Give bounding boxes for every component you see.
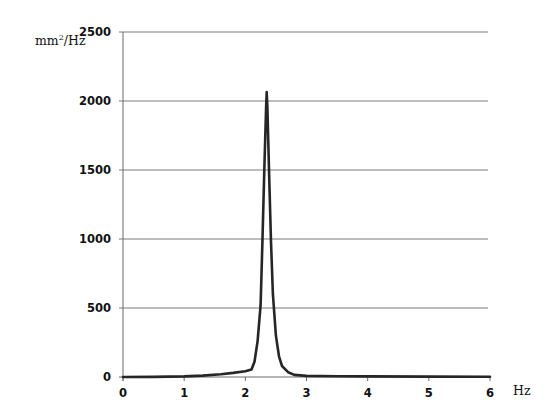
psd-curve-line <box>123 92 490 377</box>
y-tick-label: 1500 <box>79 163 111 177</box>
psd-chart: 05001000150020002500 0123456 mm2/Hz Hz <box>0 0 554 420</box>
x-tick-label: 5 <box>425 386 433 400</box>
y-tick-label: 0 <box>103 370 111 384</box>
y-tick-label: 500 <box>87 301 111 315</box>
x-tick-label: 0 <box>119 386 127 400</box>
x-tick-label: 4 <box>364 386 372 400</box>
x-tick-label: 1 <box>180 386 188 400</box>
y-tick-labels: 05001000150020002500 <box>79 25 111 384</box>
y-tick-label: 1000 <box>79 232 111 246</box>
y-axis-unit-label: mm2/Hz <box>35 33 86 48</box>
x-tick-labels: 0123456 <box>119 377 494 400</box>
x-axis-unit-label: Hz <box>513 383 531 398</box>
x-tick-label: 6 <box>486 386 494 400</box>
x-tick-label: 3 <box>302 386 310 400</box>
horizontal-gridlines <box>119 32 488 308</box>
x-tick-label: 2 <box>241 386 249 400</box>
y-tick-label: 2000 <box>79 94 111 108</box>
